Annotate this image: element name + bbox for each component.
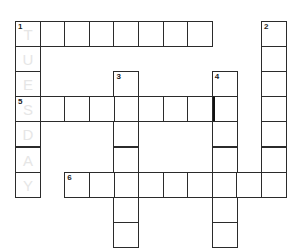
faint-letter: Y: [16, 178, 40, 194]
faint-letter: D: [16, 127, 40, 143]
grid-cell[interactable]: [40, 96, 66, 122]
grid-cell[interactable]: [212, 147, 238, 173]
faint-letter: E: [16, 77, 40, 93]
faint-letter: A: [16, 153, 40, 169]
grid-cell[interactable]: [138, 172, 164, 198]
grid-cell[interactable]: [113, 197, 139, 223]
grid-cell[interactable]: [261, 71, 287, 97]
grid-cell[interactable]: [212, 96, 238, 122]
grid-cell[interactable]: [40, 21, 66, 47]
grid-cell[interactable]: [89, 21, 115, 47]
grid-cell[interactable]: [163, 96, 189, 122]
grid-cell[interactable]: [261, 121, 287, 147]
grid-cell[interactable]: [138, 21, 164, 47]
grid-cell[interactable]: [261, 46, 287, 72]
grid-cell[interactable]: [163, 21, 189, 47]
grid-cell[interactable]: [89, 96, 115, 122]
grid-cell[interactable]: [236, 172, 262, 198]
grid-cell[interactable]: [113, 96, 139, 122]
grid-cell[interactable]: [261, 96, 287, 122]
grid-cell[interactable]: [261, 147, 287, 173]
grid-cell[interactable]: T1: [15, 21, 41, 47]
grid-cell[interactable]: S5: [15, 96, 41, 122]
grid-cell[interactable]: [138, 96, 164, 122]
grid-cell[interactable]: 2: [261, 21, 287, 47]
grid-cell[interactable]: [212, 172, 238, 198]
grid-cell[interactable]: [212, 197, 238, 223]
grid-cell[interactable]: [212, 222, 238, 248]
grid-cell[interactable]: [113, 21, 139, 47]
grid-cell[interactable]: [89, 172, 115, 198]
clue-number: 5: [18, 97, 22, 106]
grid-cell[interactable]: [113, 172, 139, 198]
grid-cell[interactable]: [187, 21, 213, 47]
grid-cell[interactable]: [187, 96, 213, 122]
grid-cell[interactable]: [113, 121, 139, 147]
grid-cell[interactable]: A: [15, 147, 41, 173]
grid-cell[interactable]: [113, 222, 139, 248]
clue-number: 6: [67, 173, 71, 182]
grid-cell[interactable]: D: [15, 121, 41, 147]
grid-cell[interactable]: 6: [64, 172, 90, 198]
grid-cell[interactable]: [187, 172, 213, 198]
clue-number: 2: [264, 22, 268, 31]
grid-cell[interactable]: [113, 147, 139, 173]
grid-cell[interactable]: [64, 96, 90, 122]
clue-number: 3: [116, 72, 120, 81]
clue-number: 1: [18, 22, 22, 31]
grid-cell[interactable]: [163, 172, 189, 198]
grid-cell[interactable]: 3: [113, 71, 139, 97]
grid-cell[interactable]: E: [15, 71, 41, 97]
grid-cell[interactable]: [212, 121, 238, 147]
grid-cell[interactable]: [64, 21, 90, 47]
grid-cell[interactable]: [261, 172, 287, 198]
grid-cell[interactable]: 4: [212, 71, 238, 97]
grid-cell[interactable]: U: [15, 46, 41, 72]
clue-number: 4: [215, 72, 219, 81]
faint-letter: U: [16, 52, 40, 68]
grid-cell[interactable]: Y: [15, 172, 41, 198]
